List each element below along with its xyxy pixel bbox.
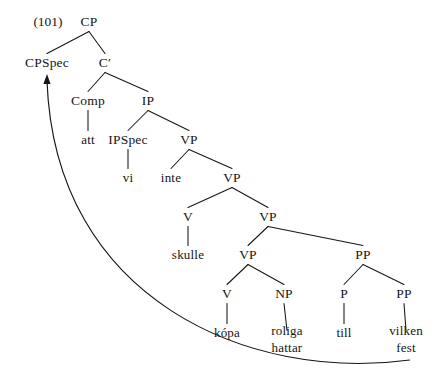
branch-pp1-to-p	[344, 265, 363, 285]
tree-node-comp: Comp	[71, 93, 105, 109]
tree-leaf-vi: vi	[123, 170, 134, 185]
example-number: (101)	[33, 14, 62, 30]
branch-cp-to-cbar	[89, 32, 105, 54]
tree-node-pp1: PP	[355, 247, 370, 263]
branch-vp2-to-v1	[188, 188, 232, 208]
tree-node-vp2: VP	[223, 170, 241, 186]
branch-vp2-to-vp3	[232, 188, 268, 208]
branch-vp1-to-inte	[171, 150, 189, 169]
branch-pp1-to-pp2	[363, 265, 404, 285]
tree-node-vp3: VP	[259, 209, 277, 225]
branch-ip-to-vp1	[148, 111, 189, 131]
branch-vp4-to-np	[248, 265, 284, 285]
branch-ip-to-ipspec	[128, 111, 148, 131]
movement-arrow-path	[47, 81, 410, 363]
branch-cp-to-cpspec	[47, 32, 89, 54]
tree-node-v2: V	[222, 286, 232, 302]
branch-vp1-to-vp2	[189, 150, 232, 169]
tree-node-np: NP	[275, 286, 293, 302]
tree-leaf-kopa: kópa	[214, 325, 240, 340]
tree-node-ipspec: IPSpec	[108, 132, 147, 148]
tree-node-p: P	[340, 286, 348, 302]
tree-node-v1: V	[183, 209, 193, 225]
tree-node-vp1: VP	[180, 132, 198, 148]
tree-leaf-inte: inte	[161, 170, 181, 185]
tree-leaf-skulle: skulle	[172, 247, 204, 262]
tree-node-ip: IP	[142, 93, 154, 109]
tree-node-pp2: PP	[396, 286, 411, 302]
tree-node-cpspec: CPSpec	[25, 55, 69, 71]
branch-cbar-to-ip	[105, 73, 148, 92]
tree-leaf-vilken: vilkenfest	[389, 323, 423, 356]
tree-leaf-till: till	[336, 325, 351, 340]
tree-node-cp: CP	[81, 14, 98, 30]
branch-cbar-to-comp	[88, 73, 105, 92]
branch-vp3-to-vp4	[248, 227, 268, 246]
branch-vp3-to-pp1	[268, 227, 363, 246]
tree-leaf-att: att	[81, 132, 95, 147]
tree-node-vp4: VP	[239, 247, 257, 263]
movement-arrowhead	[43, 74, 50, 84]
tree-node-cbar: C′	[99, 55, 111, 71]
branch-vp4-to-v2	[227, 265, 248, 285]
syntax-tree-figure: (101) CPCPSpecC′CompIPattIPSpecVPviinteV…	[0, 0, 441, 387]
tree-leaf-roliga: roligahattar	[271, 323, 303, 356]
